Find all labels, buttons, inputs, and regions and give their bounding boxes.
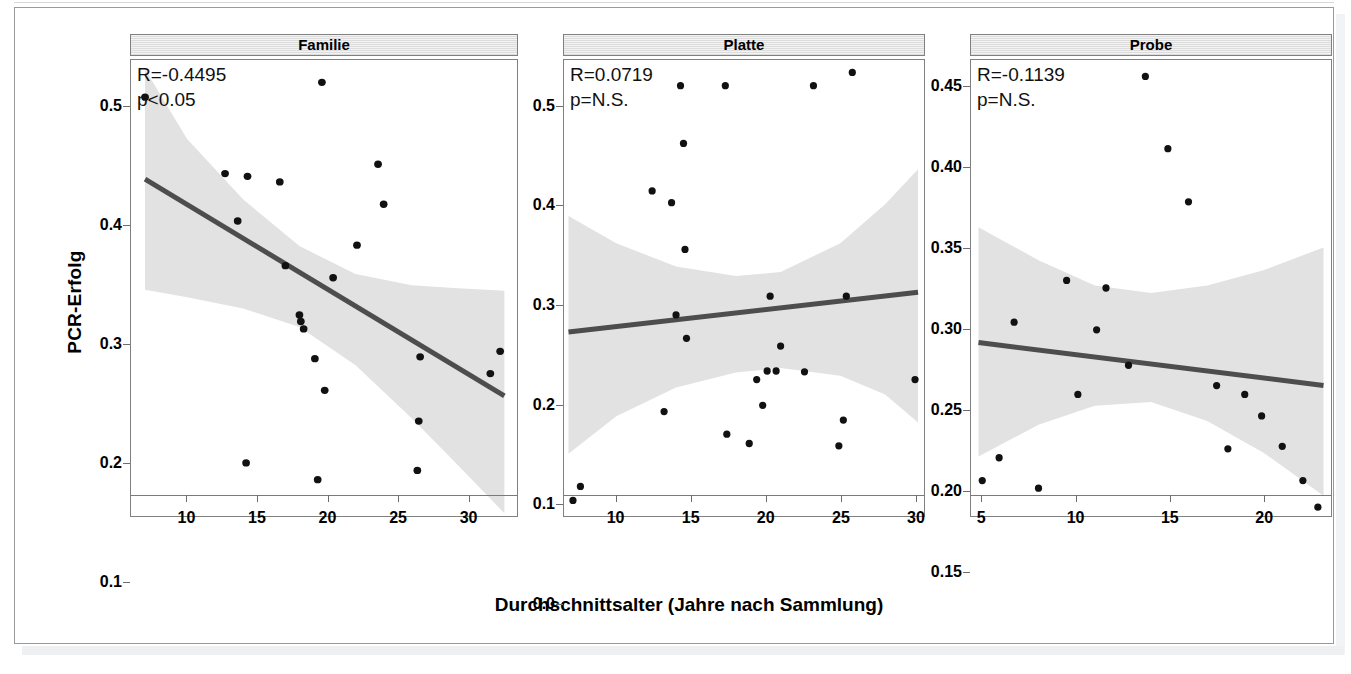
- p-value: p=N.S.: [570, 87, 653, 112]
- x-tick-label: 10: [607, 509, 625, 527]
- y-tick-label: 0.45: [931, 77, 962, 95]
- data-point: [242, 459, 250, 466]
- data-point: [314, 476, 322, 483]
- y-tick-label: 0.20: [931, 482, 962, 500]
- y-tick-mark: [556, 405, 563, 406]
- x-axis-panel-2: 1015202530: [563, 495, 925, 539]
- x-tick-label: 30: [460, 509, 478, 527]
- confidence-band: [145, 69, 504, 513]
- x-tick-mark: [691, 495, 692, 502]
- data-point: [1258, 412, 1265, 419]
- data-point: [1035, 484, 1042, 491]
- data-point: [767, 293, 774, 300]
- data-point: [577, 483, 584, 490]
- data-point: [311, 355, 319, 362]
- data-point: [329, 274, 337, 281]
- data-point: [672, 311, 679, 318]
- y-tick-label: 0.35: [931, 239, 962, 257]
- x-axis-line: [970, 495, 1332, 496]
- data-point: [1074, 391, 1081, 398]
- data-point: [996, 454, 1003, 461]
- y-tick-label: 0.5: [533, 97, 555, 115]
- data-point: [840, 416, 847, 423]
- y-tick-label: 0.2: [533, 396, 555, 414]
- y-tick-label: 0.4: [100, 216, 122, 234]
- data-point: [416, 353, 424, 360]
- correlation-value: R=-0.1139: [977, 62, 1065, 87]
- x-tick-label: 15: [682, 509, 700, 527]
- plot-area: R=0.0719p=N.S.: [563, 59, 925, 517]
- plot-area: R=-0.4495p<0.05: [130, 59, 518, 517]
- y-tick-mark: [123, 344, 130, 345]
- data-point: [777, 342, 784, 349]
- figure: PCR-Erfolg Durchschnittsalter (Jahre nac…: [30, 16, 1348, 646]
- confidence-band: [979, 227, 1324, 496]
- y-tick-label: 0.25: [931, 401, 962, 419]
- y-axis-panel-1: 0.10.20.30.40.5: [60, 41, 130, 624]
- data-point: [321, 387, 329, 394]
- correlation-value: R=-0.4495: [137, 62, 226, 87]
- data-point: [380, 201, 388, 208]
- y-tick-label: 0.4: [533, 196, 555, 214]
- y-tick-mark: [963, 167, 970, 168]
- data-point: [677, 82, 684, 89]
- data-point: [759, 402, 766, 409]
- x-tick-mark: [328, 495, 329, 502]
- x-tick-mark: [257, 495, 258, 502]
- facet-panel-familie: FamilieR=-0.4495p<0.051015202530: [130, 34, 518, 539]
- data-point: [746, 440, 753, 447]
- data-point: [1213, 382, 1220, 389]
- y-tick-mark: [556, 205, 563, 206]
- x-tick-label: 10: [1067, 509, 1085, 527]
- data-point: [1142, 73, 1149, 80]
- x-axis-line: [130, 495, 518, 496]
- x-tick-label: 15: [248, 509, 266, 527]
- data-point: [234, 217, 242, 224]
- data-point: [282, 262, 290, 269]
- data-point: [753, 376, 760, 383]
- data-point: [1093, 326, 1100, 333]
- y-tick-mark: [123, 463, 130, 464]
- data-point: [722, 82, 729, 89]
- data-point: [835, 442, 842, 449]
- y-axis-panel-2: 0.00.10.20.30.40.5: [500, 41, 563, 624]
- stat-annotation: R=-0.4495p<0.05: [137, 62, 226, 112]
- y-tick-mark: [123, 225, 130, 226]
- x-tick-mark: [1264, 495, 1265, 502]
- data-point: [486, 370, 494, 377]
- data-point: [849, 69, 856, 76]
- y-tick-mark: [963, 86, 970, 87]
- data-point: [318, 79, 326, 86]
- x-tick-mark: [616, 495, 617, 502]
- frame-shadow-bottom: [22, 646, 1344, 655]
- data-point: [300, 325, 308, 332]
- data-point: [244, 173, 252, 180]
- x-tick-mark: [186, 495, 187, 502]
- figure-frame: PCR-Erfolg Durchschnittsalter (Jahre nac…: [14, 7, 1334, 644]
- x-tick-label: 10: [178, 509, 196, 527]
- facet-panel-platte: PlatteR=0.0719p=N.S.1015202530: [563, 34, 925, 539]
- data-point: [415, 417, 423, 424]
- x-tick-label: 5: [977, 509, 986, 527]
- x-tick-label: 20: [1255, 509, 1273, 527]
- stat-annotation: R=-0.1139p=N.S.: [977, 62, 1065, 112]
- x-tick-mark: [981, 495, 982, 502]
- y-tick-mark: [963, 329, 970, 330]
- data-point: [660, 408, 667, 415]
- y-tick-mark: [963, 248, 970, 249]
- x-axis-line: [563, 495, 925, 496]
- x-axis-title: Durchschnittsalter (Jahre nach Sammlung): [30, 594, 1348, 616]
- data-point: [680, 140, 687, 147]
- p-value: p<0.05: [137, 87, 226, 112]
- x-axis-panel-3: 5101520: [970, 495, 1332, 539]
- y-tick-label: 0.1: [100, 573, 122, 591]
- stat-annotation: R=0.0719p=N.S.: [570, 62, 653, 112]
- data-point: [764, 367, 771, 374]
- y-tick-label: 0.15: [931, 563, 962, 581]
- p-value: p=N.S.: [977, 87, 1065, 112]
- y-tick-mark: [123, 106, 130, 107]
- data-point: [723, 431, 730, 438]
- data-point: [810, 82, 817, 89]
- data-point: [276, 178, 284, 185]
- data-point: [1125, 362, 1132, 369]
